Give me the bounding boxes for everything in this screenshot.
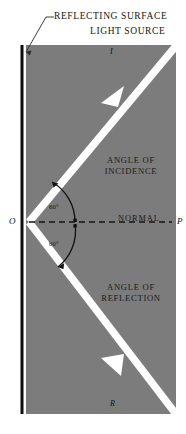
label-normal: NORMAL: [118, 214, 160, 223]
label-point-o: O: [9, 216, 16, 226]
label-angle-reflection-value: 60°: [49, 240, 59, 247]
label-angle-of-reflection: ANGLE OF REFLECTION: [94, 282, 168, 304]
angle-of-reflection-line-2: REFLECTION: [94, 293, 168, 304]
callout-light-source: LIGHT SOURCE: [90, 26, 165, 36]
label-angle-incidence-value: 60°: [49, 203, 59, 210]
angle-of-incidence-line-2: INCIDENCE: [94, 166, 168, 177]
arc-tick-lower: [73, 224, 76, 227]
angle-of-incidence-line-1: ANGLE OF: [94, 155, 168, 166]
label-point-p: P: [177, 216, 183, 226]
label-incident-ray-i: I: [110, 47, 113, 56]
figure-canvas: REFLECTING SURFACE LIGHT SOURCE ANGLE OF…: [0, 0, 186, 434]
label-angle-of-incidence: ANGLE OF INCIDENCE: [94, 155, 168, 177]
angle-of-reflection-line-1: ANGLE OF: [94, 282, 168, 293]
label-reflected-ray-r: R: [110, 399, 115, 408]
arc-tick-upper: [73, 219, 76, 222]
reflecting-surface-bar: [21, 45, 24, 414]
gray-panel: [26, 45, 176, 414]
callout-reflecting-surface: REFLECTING SURFACE: [54, 11, 167, 21]
